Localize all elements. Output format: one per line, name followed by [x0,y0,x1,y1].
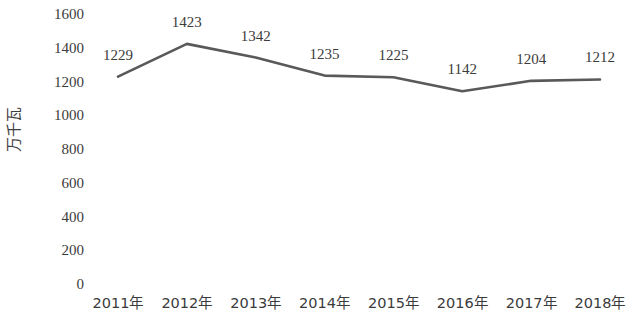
data-value-label: 1342 [216,28,296,45]
data-value-label: 1212 [560,49,630,66]
data-value-label: 1229 [78,47,158,64]
